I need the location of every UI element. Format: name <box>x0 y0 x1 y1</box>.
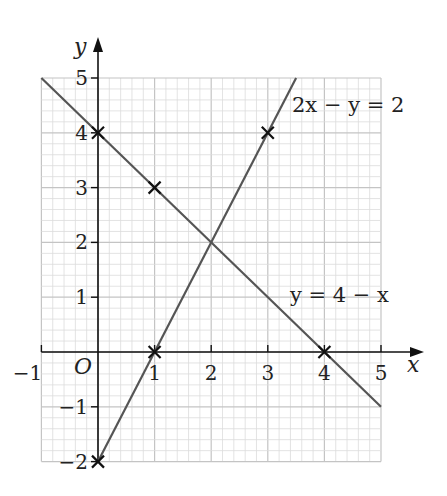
graph-chart: −112345−2−112345 y x O 2x − y = 2 y = 4 … <box>0 0 447 496</box>
y-tick-label: 2 <box>75 230 88 254</box>
x-tick-label: 5 <box>375 361 388 385</box>
equation-label-y-4-x: y = 4 − x <box>289 283 389 307</box>
origin-label: O <box>74 354 92 379</box>
labels: y x O 2x − y = 2 y = 4 − x <box>73 34 420 379</box>
x-tick-label: 2 <box>205 361 218 385</box>
x-tick-label: −1 <box>13 361 42 385</box>
y-tick-label: 5 <box>75 66 88 90</box>
y-axis-arrow-icon <box>93 37 103 52</box>
y-tick-label: −1 <box>59 395 88 419</box>
equation-label-2x-y-2: 2x − y = 2 <box>292 93 404 117</box>
x-tick-label: 3 <box>261 361 274 385</box>
y-tick-label: 1 <box>75 285 88 309</box>
grid <box>41 78 381 462</box>
y-tick-label: −2 <box>59 450 88 474</box>
x-axis-label: x <box>407 352 420 377</box>
y-tick-label: 3 <box>75 176 88 200</box>
y-axis-label: y <box>73 34 87 59</box>
x-tick-label: 1 <box>148 361 161 385</box>
y-tick-label: 4 <box>75 121 88 145</box>
x-tick-label: 4 <box>318 361 331 385</box>
